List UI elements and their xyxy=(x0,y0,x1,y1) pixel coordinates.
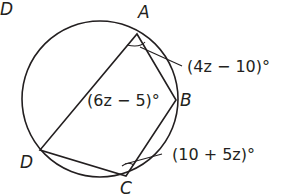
vertex-label-a: A xyxy=(137,2,150,22)
angle-label-b: (6z − 5)° xyxy=(87,91,160,110)
vertex-label-d: D xyxy=(20,152,33,172)
angle-label-a: (4z − 10)° xyxy=(187,57,270,76)
vertex-label-b: B xyxy=(180,90,192,110)
leader-line-c xyxy=(125,154,162,164)
inscribed-quadrilateral-diagram: D A B C D (4z − 10)° (6z − 5)° (10 + 5z)… xyxy=(0,0,284,195)
corner-label: D xyxy=(0,0,13,19)
vertex-label-c: C xyxy=(120,178,132,195)
angle-label-c: (10 + 5z)° xyxy=(172,145,255,164)
